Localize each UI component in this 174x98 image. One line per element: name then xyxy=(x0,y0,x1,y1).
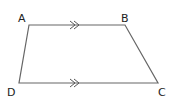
vertex-label-a: A xyxy=(18,12,26,25)
trapezium-shape xyxy=(19,25,158,83)
vertex-label-c: C xyxy=(158,86,166,98)
vertex-label-d: D xyxy=(7,86,15,98)
diagram-svg: A B C D xyxy=(0,0,174,98)
trapezium-diagram: A B C D xyxy=(0,0,174,98)
vertex-label-b: B xyxy=(121,12,129,25)
